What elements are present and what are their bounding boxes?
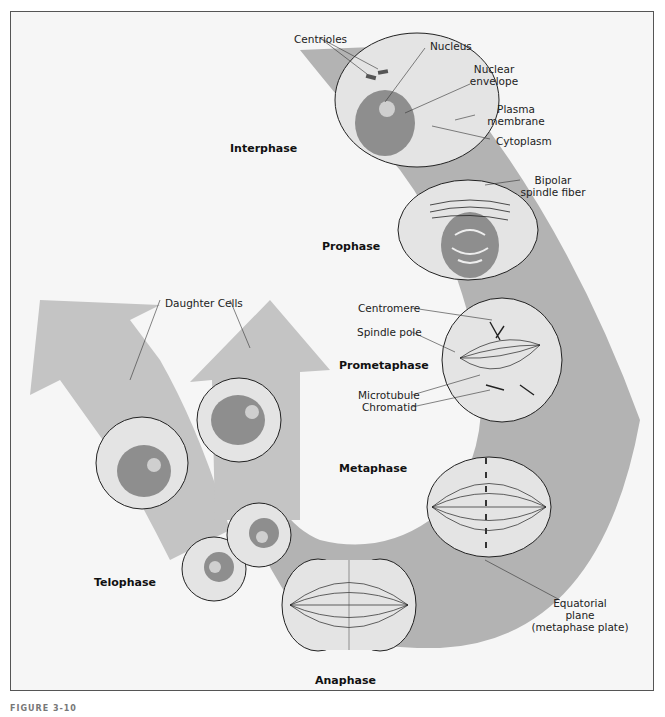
label-equatorial-line1: Equatorial [530,597,630,609]
label-bipolar-line1: Bipolar [513,174,593,186]
label-chromatid: Chromatid [362,401,417,413]
label-cytoplasm: Cytoplasm [496,135,552,147]
label-plasma-membrane: Plasma membrane [480,103,552,127]
phase-label-prophase: Prophase [322,240,380,253]
label-equatorial-line2: plane [530,609,630,621]
label-nuclear-envelope: Nuclear envelope [464,63,524,87]
phase-label-prometaphase: Prometaphase [339,359,429,372]
label-equatorial-plane: Equatorial plane (metaphase plate) [530,597,630,633]
label-daughter-cells: Daughter Cells [165,297,243,309]
label-equatorial-line3: (metaphase plate) [530,621,630,633]
phase-label-anaphase: Anaphase [315,674,376,687]
phase-label-interphase: Interphase [230,142,297,155]
label-nucleus: Nucleus [430,40,472,52]
label-nuclear-envelope-line2: envelope [464,75,524,87]
anaphase-cell [282,559,416,651]
figure-caption: FIGURE 3-10 [10,704,77,713]
label-bipolar-line2: spindle fiber [513,186,593,198]
label-nuclear-envelope-line1: Nuclear [464,63,524,75]
label-plasma-membrane-line2: membrane [480,115,552,127]
metaphase-cell [427,457,551,557]
label-spindle-pole: Spindle pole [357,326,422,338]
label-bipolar-spindle-fiber: Bipolar spindle fiber [513,174,593,198]
prometaphase-cell [442,298,562,422]
label-centrioles: Centrioles [294,33,347,45]
phase-label-metaphase: Metaphase [339,462,407,475]
interphase-cell [335,33,499,167]
label-centromere: Centromere [358,302,420,314]
label-plasma-membrane-line1: Plasma [480,103,552,115]
label-microtubule: Microtubule [358,389,420,401]
phase-label-telophase: Telophase [94,576,156,589]
